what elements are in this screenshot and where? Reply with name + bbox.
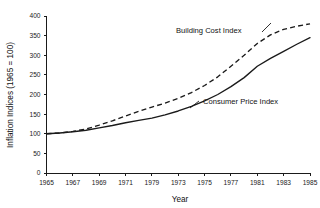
x-tick-label: 1967: [66, 179, 81, 186]
x-tick-label: 1965: [39, 179, 54, 186]
series-line-building-cost-index: [47, 24, 311, 134]
x-tick-label: 1977: [224, 179, 239, 186]
y-tick-label: 250: [29, 71, 40, 78]
x-axis: 1965196719691971197919731975197719811983…: [39, 173, 318, 186]
y-axis-title: Inflation Indices (1965 = 100): [6, 42, 15, 148]
x-tick-label: 1971: [118, 179, 133, 186]
x-axis-title: Year: [172, 195, 189, 204]
series-group: [47, 24, 311, 134]
series-line-consumer-price-index: [47, 38, 311, 134]
annotation-building-cost-index: Building Cost Index: [176, 26, 242, 35]
leader-line-consumer: [190, 101, 199, 108]
annotation-group: Building Cost Index Consumer Price Index: [176, 23, 278, 108]
x-tick-label: 1985: [303, 179, 318, 186]
x-tick-label: 1981: [250, 179, 265, 186]
inflation-indices-chart: 050100150200250300350400 196519671969197…: [0, 0, 320, 208]
x-tick-label: 1975: [197, 179, 212, 186]
y-tick-label: 400: [29, 12, 40, 19]
y-tick-label: 200: [29, 91, 40, 98]
y-tick-label: 150: [29, 111, 40, 118]
y-tick-label: 50: [33, 150, 41, 157]
annotation-consumer-price-index: Consumer Price Index: [203, 97, 278, 106]
y-tick-label: 300: [29, 52, 40, 59]
leader-line-building: [262, 23, 271, 32]
x-tick-label: 1983: [276, 179, 291, 186]
x-tick-label: 1973: [171, 179, 186, 186]
x-tick-group: 1965196719691971197919731975197719811983…: [39, 173, 318, 186]
y-tick-label: 0: [37, 169, 41, 176]
chart-canvas: 050100150200250300350400 196519671969197…: [0, 0, 320, 208]
y-tick-label: 350: [29, 32, 40, 39]
y-tick-group: 050100150200250300350400: [29, 12, 46, 176]
y-tick-label: 100: [29, 130, 40, 137]
x-tick-label: 1979: [145, 179, 160, 186]
x-tick-label: 1969: [92, 179, 107, 186]
y-axis: 050100150200250300350400: [29, 12, 46, 176]
